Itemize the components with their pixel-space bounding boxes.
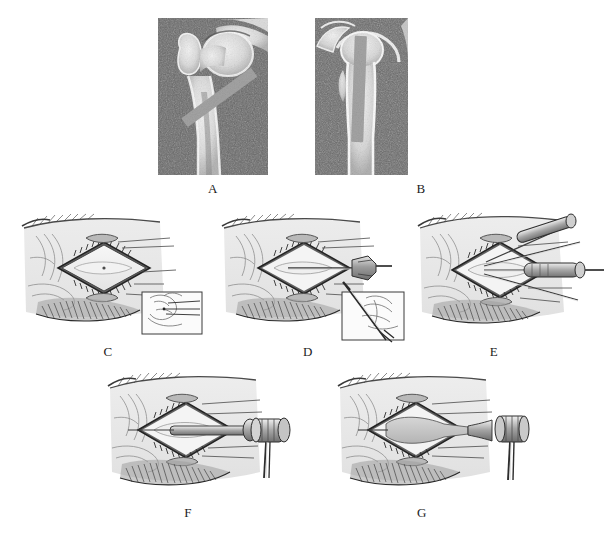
- panel-label-A: A: [203, 182, 223, 195]
- inset-diagram-D: [342, 282, 404, 342]
- panel-label-G: G: [412, 506, 432, 519]
- panel-C-artwork: [14, 206, 206, 338]
- panel-D: [216, 206, 408, 346]
- inset-diagram-C: [142, 292, 202, 334]
- panel-F-artwork: [98, 366, 303, 500]
- panel-label-F: F: [178, 506, 198, 519]
- panel-label-C: C: [98, 345, 118, 358]
- panel-A-artwork: [158, 18, 268, 175]
- panel-B: [315, 18, 408, 175]
- panel-F: [98, 366, 303, 500]
- panel-label-B: B: [411, 182, 431, 195]
- panel-D-artwork: [216, 206, 408, 346]
- panel-E: [408, 202, 608, 338]
- panel-G-artwork: [328, 366, 533, 500]
- panel-A: [158, 18, 268, 175]
- panel-C: [14, 206, 206, 338]
- panel-G: [328, 366, 533, 500]
- surgical-mallet-G: [495, 416, 529, 480]
- panel-E-artwork: [408, 202, 608, 338]
- figure-plate: A: [0, 0, 612, 537]
- reamer-E: [524, 262, 604, 278]
- panel-label-E: E: [484, 345, 504, 358]
- panel-label-D: D: [298, 345, 318, 358]
- panel-B-artwork: [315, 18, 408, 175]
